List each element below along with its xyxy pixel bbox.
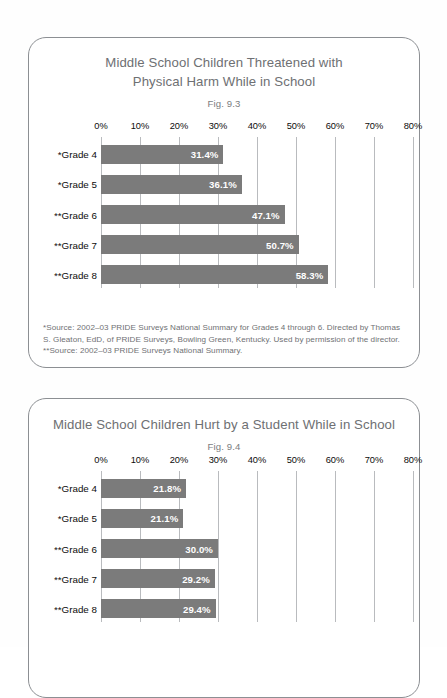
x-axis-tick-70pct: 70%: [365, 121, 384, 131]
x-axis-tick-80pct: 80%: [404, 455, 423, 465]
x-axis-tick-50pct: 50%: [287, 455, 306, 465]
bar: 29.2%: [101, 569, 215, 588]
bar-row: **Grade 858.3%: [101, 265, 413, 284]
chart-plot-area: 0%10%20%30%40%50%60%70%80% *Grade 421.8%…: [29, 455, 419, 622]
bar-row: *Grade 521.1%: [101, 509, 413, 528]
bar-category-label: *Grade 4: [58, 149, 97, 160]
bar-category-label: *Grade 5: [58, 179, 97, 190]
x-axis-tick-10pct: 10%: [131, 121, 150, 131]
bar-category-label: **Grade 6: [54, 209, 97, 220]
bar-value-label: 58.3%: [296, 269, 324, 280]
x-axis-tick-60pct: 60%: [326, 455, 345, 465]
bar-value-label: 50.7%: [266, 239, 294, 250]
figure-number: Fig. 9.3: [29, 98, 419, 109]
x-axis-tick-20pct: 20%: [170, 455, 189, 465]
chart-grid-and-bars: *Grade 431.4%*Grade 536.1%**Grade 647.1%…: [101, 137, 413, 288]
chart-title-block: Middle School Children Hurt by a Student…: [29, 399, 419, 452]
bar-value-label: 30.0%: [185, 543, 213, 554]
chart-grid-and-bars: *Grade 421.8%*Grade 521.1%**Grade 630.0%…: [101, 471, 413, 622]
bar-value-label: 29.2%: [182, 573, 210, 584]
bar-category-label: **Grade 8: [54, 269, 97, 280]
bar: 50.7%: [101, 235, 299, 254]
bar: 29.4%: [101, 599, 216, 618]
footnote-line-1: *Source: 2002–03 PRIDE Surveys National …: [43, 322, 407, 344]
x-axis-tick-0pct: 0%: [94, 121, 107, 131]
x-axis-tick-50pct: 50%: [287, 121, 306, 131]
bar-value-label: 21.8%: [153, 483, 181, 494]
chart-title-line-1: Middle School Children Threatened with: [105, 55, 342, 70]
x-axis-tick-30pct: 30%: [209, 121, 228, 131]
bar: 36.1%: [101, 175, 242, 194]
x-axis-tick-labels: 0%10%20%30%40%50%60%70%80%: [101, 121, 413, 137]
bar-value-label: 47.1%: [252, 209, 280, 220]
chart-plot-area: 0%10%20%30%40%50%60%70%80% *Grade 431.4%…: [29, 121, 419, 288]
bar: 30.0%: [101, 539, 218, 558]
bar-row: **Grade 729.2%: [101, 569, 413, 588]
chart-title-line-1: Middle School Children Hurt by a Student…: [53, 417, 395, 432]
gridline: [413, 137, 414, 288]
bar-row: *Grade 421.8%: [101, 479, 413, 498]
gridline: [413, 471, 414, 622]
bar-series: *Grade 431.4%*Grade 536.1%**Grade 647.1%…: [101, 137, 413, 288]
x-axis-tick-70pct: 70%: [365, 455, 384, 465]
bar-row: *Grade 431.4%: [101, 145, 413, 164]
bar: 21.1%: [101, 509, 183, 528]
page-title: Middle School Children Threatened with P…: [29, 53, 419, 91]
footnote-line-2: **Source: 2002–03 PRIDE Surveys National…: [43, 345, 407, 356]
bar: 21.8%: [101, 479, 186, 498]
bar-row: **Grade 829.4%: [101, 599, 413, 618]
bar-value-label: 29.4%: [183, 603, 211, 614]
chart-title-line-2: Physical Harm While in School: [29, 72, 419, 91]
bar-value-label: 36.1%: [209, 179, 237, 190]
bar-category-label: **Grade 6: [54, 543, 97, 554]
bar-category-label: **Grade 8: [54, 603, 97, 614]
bar: 47.1%: [101, 205, 285, 224]
x-axis-tick-0pct: 0%: [94, 455, 107, 465]
bar: 31.4%: [101, 145, 223, 164]
chart-card-fig-9-4: Middle School Children Hurt by a Student…: [28, 398, 420, 698]
figure-number: Fig. 9.4: [29, 441, 419, 452]
chart-card-fig-9-3: Middle School Children Threatened with P…: [28, 37, 420, 368]
chart-title-block: Middle School Children Threatened with P…: [29, 38, 419, 109]
x-axis-tick-labels: 0%10%20%30%40%50%60%70%80%: [101, 455, 413, 471]
x-axis-tick-30pct: 30%: [209, 455, 228, 465]
x-axis-tick-20pct: 20%: [170, 121, 189, 131]
chart-footnote: *Source: 2002–03 PRIDE Surveys National …: [43, 322, 407, 356]
x-axis-tick-10pct: 10%: [131, 455, 150, 465]
bar-row: **Grade 750.7%: [101, 235, 413, 254]
bar-row: *Grade 536.1%: [101, 175, 413, 194]
bar-value-label: 21.1%: [151, 513, 179, 524]
x-axis-tick-40pct: 40%: [248, 455, 267, 465]
bar-category-label: **Grade 7: [54, 573, 97, 584]
bar-category-label: **Grade 7: [54, 239, 97, 250]
bar-category-label: *Grade 4: [58, 483, 97, 494]
x-axis-tick-60pct: 60%: [326, 121, 345, 131]
bar: 58.3%: [101, 265, 328, 284]
bar-series: *Grade 421.8%*Grade 521.1%**Grade 630.0%…: [101, 471, 413, 622]
bar-row: **Grade 630.0%: [101, 539, 413, 558]
bar-row: **Grade 647.1%: [101, 205, 413, 224]
x-axis-tick-40pct: 40%: [248, 121, 267, 131]
x-axis-tick-80pct: 80%: [404, 121, 423, 131]
bar-category-label: *Grade 5: [58, 513, 97, 524]
page-title: Middle School Children Hurt by a Student…: [29, 415, 419, 434]
bar-value-label: 31.4%: [191, 149, 219, 160]
